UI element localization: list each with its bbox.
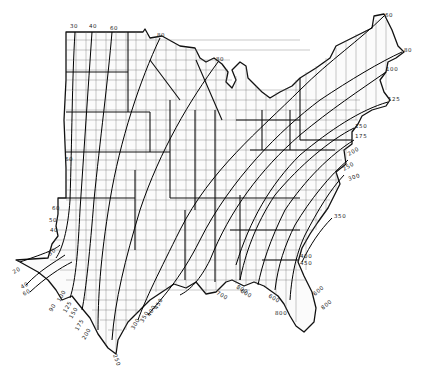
us-outline: [16, 14, 404, 354]
contour-label-20: 20: [12, 266, 22, 275]
contour-label-175: 175: [74, 318, 85, 332]
contour-label-400: 400: [300, 253, 312, 259]
contour-label-200: 200: [81, 327, 92, 341]
contour-label-175: 175: [355, 133, 367, 139]
contour-label-30: 30: [70, 23, 78, 29]
contour-label-40: 40: [89, 23, 97, 29]
contour-label-60: 60: [52, 205, 60, 211]
contour-label-100: 100: [386, 66, 398, 72]
contour-map: 30 40 60 80 80 60 80 100 125 150 175 200…: [0, 0, 425, 376]
contour-label-60: 60: [65, 156, 73, 162]
contour-label-40: 40: [50, 227, 58, 233]
contour-label-50: 50: [49, 217, 57, 223]
contour-label-700: 700: [216, 290, 230, 301]
contour-label-90: 90: [48, 302, 57, 312]
contour-label-300: 300: [347, 172, 361, 182]
contour-label-450: 450: [300, 260, 312, 266]
contour-label-80: 80: [157, 32, 165, 38]
contour-label-800: 800: [275, 310, 287, 316]
contour-label-80: 80: [404, 47, 412, 53]
contour-label-600: 600: [312, 284, 325, 297]
contour-label-250: 250: [112, 353, 122, 367]
contour-label-80: 80: [216, 56, 224, 62]
contour-label-450: 450: [153, 297, 164, 311]
contour-label-150: 150: [355, 123, 367, 129]
contour-label-350: 350: [334, 213, 346, 219]
contour-label-125: 125: [388, 96, 400, 102]
contour-label-800: 800: [320, 298, 333, 311]
contour-label-60: 60: [110, 25, 118, 31]
contour-label-60: 60: [385, 12, 393, 18]
